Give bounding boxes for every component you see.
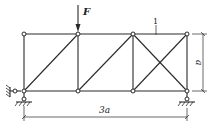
node-T3	[131, 32, 135, 36]
right-support	[178, 93, 195, 106]
member-B2-T3	[78, 34, 133, 91]
load-arrow-F	[76, 5, 81, 32]
node-B2	[76, 89, 80, 93]
truss-diagram: F 1 3a	[0, 0, 213, 123]
load-label: F	[82, 6, 91, 17]
left-support	[6, 85, 32, 106]
node-T4	[185, 32, 189, 36]
node-B3	[131, 89, 135, 93]
dimension-width-label: 3a	[99, 105, 110, 115]
truss-members	[24, 34, 187, 91]
node-T2	[76, 32, 80, 36]
node-T1	[22, 32, 26, 36]
member-label: 1	[153, 17, 158, 26]
member-B1-T2	[24, 34, 78, 91]
node-B4	[185, 89, 189, 93]
node-B1	[22, 89, 26, 93]
dimension-height-label: a	[194, 60, 204, 65]
